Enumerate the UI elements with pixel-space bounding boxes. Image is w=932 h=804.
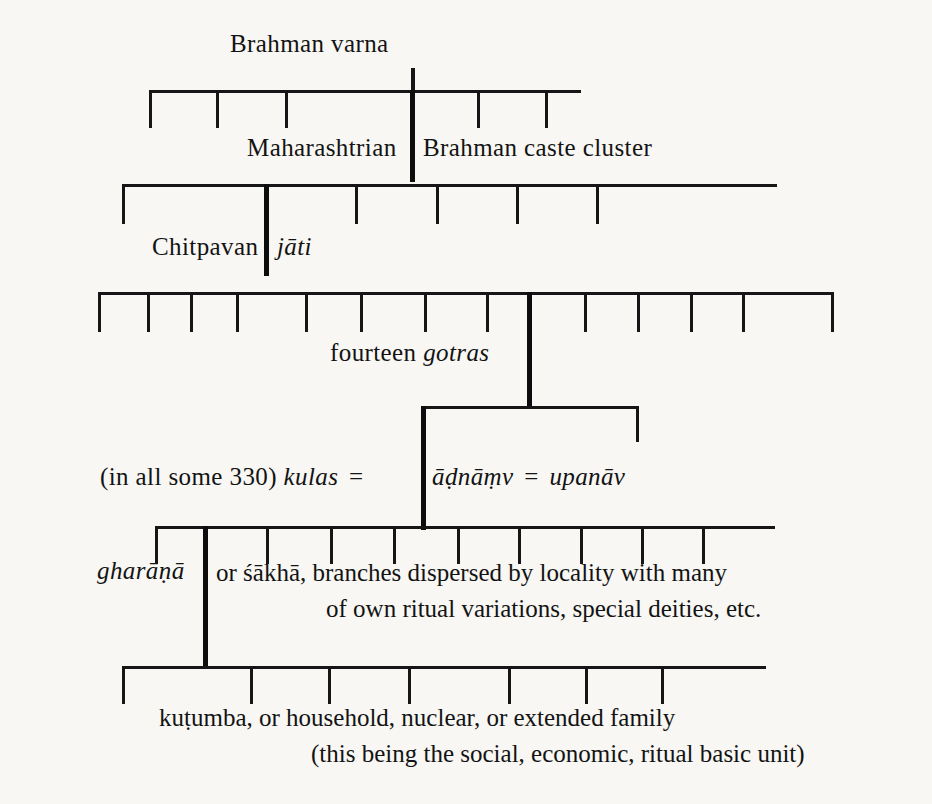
label-chitpavan-text: Chitpavan <box>152 233 258 260</box>
branch-tick-cluster-3 <box>355 184 358 224</box>
label-kulas-right: āḍnāṃv = upanāv <box>432 461 625 493</box>
branch-tick-jati-8 <box>486 292 489 332</box>
label-gharana-description: or śākhā, branches dispersed by locality… <box>216 555 761 627</box>
branch-tick-gharana-3 <box>328 666 331 704</box>
branch-tick-varna-selected <box>410 90 415 182</box>
branch-tick-gharana-4 <box>408 666 411 704</box>
label-chitpavan: Chitpavan <box>152 231 258 263</box>
branch-tick-jati-selected <box>527 292 532 408</box>
label-maharashtrian: Maharashtrian <box>247 132 397 164</box>
label-gharana-text: gharāṇā <box>97 557 185 584</box>
branch-tick-varna-6 <box>545 90 548 128</box>
branch-tick-jati-3 <box>190 292 193 332</box>
branch-tick-jati-2 <box>147 292 150 332</box>
branch-tick-jati-14 <box>831 292 834 332</box>
label-maharashtrian-text: Maharashtrian <box>247 134 397 161</box>
gharana-line-2: of own ritual variations, special deitie… <box>216 591 761 627</box>
branch-tick-varna-1 <box>149 90 152 128</box>
label-brahman-varna: Brahman varna <box>230 28 389 60</box>
kutumba-term-text: kuṭumba <box>159 704 247 731</box>
label-kulas-left: (in all some 330) kulas = <box>100 461 368 493</box>
label-jati: jāti <box>277 231 312 263</box>
branch-tick-gharana-7 <box>661 666 664 704</box>
stem-varna-to-bar1 <box>411 68 415 92</box>
branch-tick-cluster-5 <box>516 184 519 224</box>
label-kutumba: kuṭumba, or household, nuclear, or exten… <box>159 700 805 772</box>
label-jati-text: jāti <box>277 233 312 260</box>
branch-tick-jati-7 <box>424 292 427 332</box>
label-brahman-varna-text: Brahman varna <box>230 30 389 57</box>
kutumba-line-1: kuṭumba, or household, nuclear, or exten… <box>159 700 805 736</box>
label-fourteen-text: fourteen <box>330 339 417 366</box>
branch-tick-jati-1 <box>98 292 101 332</box>
gharana-line-1: or śākhā, branches dispersed by locality… <box>216 555 761 591</box>
branch-tick-cluster-4 <box>436 184 439 224</box>
branch-tick-cluster-6 <box>596 184 599 224</box>
branch-tick-gharana-5 <box>508 666 511 704</box>
gharana-sakha-rest: , branches dispersed by locality with ma… <box>300 559 727 586</box>
label-upanav-text: upanāv <box>549 463 625 490</box>
branch-bar-gharana <box>122 666 766 669</box>
branch-tick-jati-12 <box>690 292 693 332</box>
branch-tick-cluster-selected <box>264 184 269 276</box>
branch-bar-varna <box>149 90 581 93</box>
label-kulas-equals: = <box>345 463 368 490</box>
label-kulas-text: kulas <box>284 463 339 490</box>
kutumba-rest-text: , or household, nuclear, or extended fam… <box>247 704 676 731</box>
label-gharana: gharāṇā <box>97 555 185 587</box>
label-brahman-caste-cluster-text: Brahman caste cluster <box>423 134 652 161</box>
label-adnamv-equals: = <box>520 463 543 490</box>
branch-bar-jati <box>98 292 834 295</box>
branch-tick-gharana-1 <box>122 666 125 704</box>
branch-bar-gotras <box>421 406 639 409</box>
diagram-canvas: Brahman varna Maharashtrian Brahman cast… <box>0 0 932 804</box>
branch-tick-gharana-6 <box>585 666 588 704</box>
branch-tick-kulas-selected <box>203 526 208 668</box>
branch-tick-jati-6 <box>360 292 363 332</box>
kutumba-line-2: (this being the social, economic, ritual… <box>159 736 805 772</box>
branch-tick-jati-13 <box>742 292 745 332</box>
label-in-all-some-330: (in all some 330) <box>100 463 277 490</box>
label-gotras-text: gotras <box>423 339 489 366</box>
branch-tick-varna-5 <box>477 90 480 128</box>
branch-tick-gharana-2 <box>250 666 253 704</box>
branch-bar-caste-cluster <box>122 184 777 187</box>
branch-bar-kulas <box>155 526 775 529</box>
label-brahman-caste-cluster: Brahman caste cluster <box>423 132 652 164</box>
branch-tick-jati-10 <box>584 292 587 332</box>
branch-tick-gotras-kulas <box>421 406 426 530</box>
branch-tick-gotras-right <box>636 406 639 442</box>
branch-tick-varna-2 <box>216 90 219 128</box>
gharana-or-text: or <box>216 559 237 586</box>
label-adnamv-text: āḍnāṃv <box>432 463 514 490</box>
branch-tick-cluster-1 <box>122 184 125 224</box>
gharana-sakha-text: śākhā <box>243 559 300 586</box>
branch-tick-jati-11 <box>637 292 640 332</box>
branch-tick-jati-4 <box>236 292 239 332</box>
branch-tick-jati-5 <box>305 292 308 332</box>
label-fourteen-gotras: fourteen gotras <box>330 337 489 369</box>
branch-tick-varna-3 <box>285 90 288 128</box>
